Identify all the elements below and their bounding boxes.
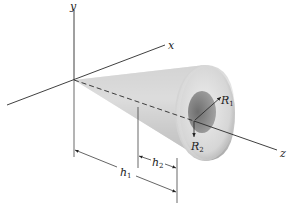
h2-label: h2 bbox=[152, 156, 164, 170]
cone-diagram: y x z R1 R2 h2 h1 bbox=[0, 0, 287, 212]
diagram-canvas: y x z R1 R2 h2 h1 bbox=[0, 0, 287, 212]
h1-label: h1 bbox=[120, 166, 132, 180]
h2-dimension-left bbox=[139, 156, 151, 160]
y-axis-label: y bbox=[69, 0, 77, 13]
z-axis-label: z bbox=[279, 147, 286, 160]
h2-dimension-right bbox=[165, 164, 176, 168]
inner-hole bbox=[188, 91, 216, 133]
h1-dimension-right bbox=[136, 176, 176, 192]
x-axis-label: x bbox=[168, 39, 175, 52]
h1-dimension-left bbox=[75, 150, 117, 167]
